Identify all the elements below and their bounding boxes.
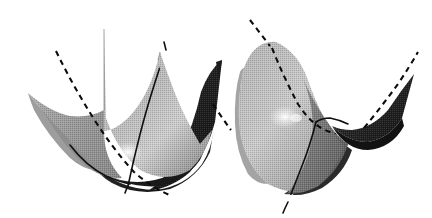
bowl-specular-highlight <box>113 142 143 162</box>
quadric-surfaces-figure: Quadric surfaces with coordinate curves <box>0 0 432 218</box>
figure-root: Quadric surfaces with coordinate curves <box>0 0 432 218</box>
saddle-secondary-highlight <box>290 114 302 122</box>
